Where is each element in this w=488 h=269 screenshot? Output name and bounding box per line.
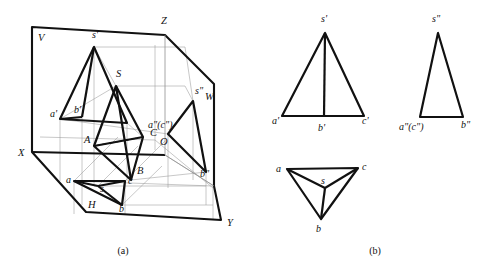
caption-panel-b: (b) [369, 245, 381, 257]
side-projection-in-space [168, 101, 206, 172]
label-plane-v: V [38, 32, 46, 43]
label-b-front-s-prime: s' [321, 13, 328, 24]
label-b-top-c: c [362, 161, 367, 172]
label-axis-x: X [17, 147, 25, 158]
front-view-triangle [282, 33, 364, 117]
technical-drawing-svg: V W H Z X Y O S A B C s' a' b' s" a"(c")… [0, 0, 488, 269]
side-view-triangle [420, 33, 463, 117]
label-b-top-b: b [316, 223, 321, 234]
pyramid-in-space [94, 86, 143, 180]
label-a-side-ac-double-prime: a"(c") [148, 119, 173, 131]
label-plane-h: H [87, 199, 97, 210]
label-axis-z: Z [161, 15, 167, 26]
caption-panel-a: (a) [117, 245, 128, 257]
label-space-point-s: S [116, 68, 122, 79]
label-space-point-b: B [137, 165, 144, 176]
panel-a-group [32, 27, 221, 220]
label-b-front-b-prime: b' [318, 122, 326, 133]
label-a-front-s-prime: s' [92, 29, 99, 40]
v-h-fold-line [32, 152, 165, 155]
label-b-top-a: a [276, 163, 281, 174]
label-b-side-s-double-prime: s" [432, 13, 441, 24]
label-space-point-a: A [83, 134, 91, 145]
label-a-top-s: s [100, 183, 104, 194]
label-a-top-c: c [128, 175, 133, 186]
label-a-side-s-double-prime: s" [195, 85, 204, 96]
label-a-front-b-prime: b' [74, 104, 82, 115]
label-b-front-c-prime: c' [362, 115, 369, 126]
figure-canvas: V W H Z X Y O S A B C s' a' b' s" a"(c")… [0, 0, 488, 269]
label-b-side-ac-double-prime: a"(c") [399, 121, 424, 133]
label-a-side-b-double-prime: b" [200, 168, 210, 179]
label-a-top-b: b [119, 203, 124, 214]
panel-b-group [282, 33, 463, 219]
label-a-front-a-prime: a' [50, 108, 58, 119]
label-axis-y: Y [227, 217, 234, 228]
label-b-side-b-double-prime: b" [461, 119, 471, 130]
label-b-top-s: s [321, 175, 325, 186]
label-plane-w: W [205, 91, 215, 102]
label-b-front-a-prime: a' [272, 115, 280, 126]
label-a-top-a: a [66, 174, 71, 185]
label-origin-o: O [160, 136, 168, 147]
front-projection-in-space [60, 47, 127, 123]
